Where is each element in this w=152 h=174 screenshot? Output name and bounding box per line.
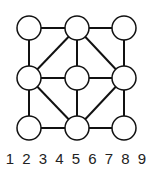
- label-8: 8: [119, 150, 133, 167]
- node-tm: [65, 16, 89, 40]
- label-7: 7: [102, 150, 116, 167]
- label-4: 4: [53, 150, 67, 167]
- label-1: 1: [3, 150, 17, 167]
- label-2: 2: [20, 150, 34, 167]
- label-5: 5: [69, 150, 83, 167]
- node-ml: [17, 66, 41, 90]
- node-mm: [65, 66, 89, 90]
- node-mr: [112, 66, 136, 90]
- node-tl: [17, 16, 41, 40]
- node-br: [112, 116, 136, 140]
- label-9: 9: [135, 150, 149, 167]
- nodes: [17, 16, 136, 140]
- node-bl: [17, 116, 41, 140]
- graph-diagram: [0, 0, 152, 150]
- label-3: 3: [36, 150, 50, 167]
- node-tr: [112, 16, 136, 40]
- label-6: 6: [86, 150, 100, 167]
- number-labels: 1 2 3 4 5 6 7 8 9: [0, 150, 152, 167]
- node-bm: [65, 116, 89, 140]
